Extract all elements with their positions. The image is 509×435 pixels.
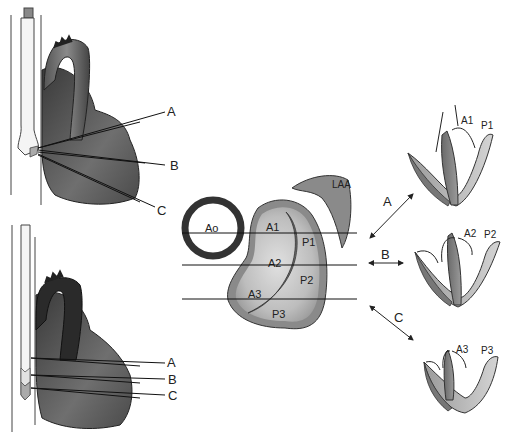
section-a-label-posterior: P1	[481, 120, 494, 131]
diagram-canvas: A B C A B C Ao LAA	[0, 0, 509, 435]
arrow-label-c: C	[394, 310, 403, 325]
arrow-label-a: A	[383, 194, 392, 209]
top-probe-tip-cap	[24, 8, 33, 18]
scallop-p1: P1	[302, 236, 315, 248]
section-b-arc-right	[458, 238, 472, 255]
arrow-label-b: B	[381, 247, 390, 262]
top-heart-body	[42, 67, 139, 204]
cross-section-a: A1 P1	[408, 105, 494, 206]
cross-section-b: A2 P2	[415, 228, 500, 307]
ao-label: Ao	[205, 222, 218, 234]
bottom-label-a: A	[167, 355, 176, 370]
top-probe	[18, 18, 39, 155]
cross-section-c: A3 P3	[424, 344, 498, 413]
section-b-label-anterior: A2	[464, 228, 477, 239]
bottom-label-c: C	[168, 388, 177, 403]
scallop-a1: A1	[266, 221, 279, 233]
section-a-arc	[452, 128, 475, 148]
section-b-label-posterior: P2	[484, 229, 497, 240]
top-probe-transducer	[30, 146, 38, 157]
scallop-p2: P2	[300, 274, 313, 286]
section-a-label-anterior: A1	[461, 115, 474, 126]
bottom-label-b: B	[168, 372, 177, 387]
top-label-b: B	[170, 158, 179, 173]
valve-en-face: Ao LAA A1 A2 A3 P1 P2 P3	[182, 176, 357, 329]
arrow-c	[370, 306, 413, 340]
section-c-label-anterior: A3	[456, 344, 469, 355]
laa-label: LAA	[332, 179, 351, 190]
top-heart-panel: A B C	[11, 8, 179, 218]
top-label-a: A	[167, 104, 176, 119]
scallop-a3: A3	[248, 288, 261, 300]
plane-arrows: A B C	[369, 194, 413, 340]
section-c-posterior-leaflet	[424, 357, 498, 413]
bottom-heart-panel: A B C	[12, 225, 177, 432]
scallop-p3: P3	[272, 308, 285, 320]
section-c-label-posterior: P3	[481, 345, 494, 356]
section-a-guide-right	[455, 105, 458, 126]
scallop-a2: A2	[268, 257, 281, 269]
top-label-c: C	[157, 203, 166, 218]
section-c-anterior-leaflet	[444, 350, 454, 400]
